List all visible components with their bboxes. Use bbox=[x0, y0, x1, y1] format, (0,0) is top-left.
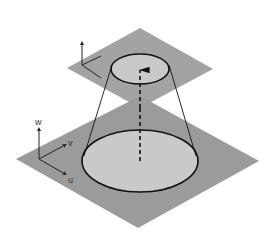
w-axis-label: w bbox=[35, 118, 42, 127]
v-axis-label: v bbox=[68, 139, 73, 148]
u-axis-label: u bbox=[68, 176, 73, 185]
